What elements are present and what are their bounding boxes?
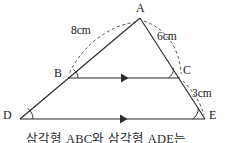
vertex-label-D: D (3, 109, 12, 121)
geometry-canvas (0, 0, 225, 143)
measure-arc-ac (144, 21, 181, 74)
angle-mark-e (193, 108, 199, 119)
length-label-ab: 8cm (71, 25, 91, 37)
length-label-ac: 6cm (157, 31, 177, 43)
vertex-label-E: E (209, 109, 216, 121)
vertex-label-B: B (54, 67, 62, 79)
parallel-marker-de (120, 115, 128, 124)
vertex-label-C: C (183, 64, 191, 76)
vertex-label-A: A (136, 2, 145, 14)
length-label-ce: 3cm (192, 88, 212, 100)
parallel-marker-bc (121, 74, 129, 83)
caption-text: 삼각형 ABC와 삼각형 ADE는 (26, 128, 186, 143)
geometry-figure: A B C D E 8cm 6cm 3cm 삼각형 ABC와 삼각형 ADE는 (0, 0, 225, 143)
caption-strip: 삼각형 ABC와 삼각형 ADE는 (0, 128, 225, 143)
